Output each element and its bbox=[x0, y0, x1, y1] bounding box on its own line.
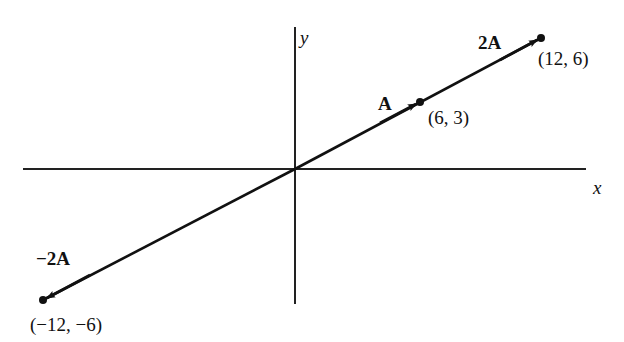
point-neg2A bbox=[39, 296, 47, 304]
vector-neg2A-arrowhead bbox=[47, 275, 90, 298]
vector-neg2A-label: −2A bbox=[36, 249, 70, 268]
vector-2A-label: 2A bbox=[478, 33, 501, 52]
vector-neg2A-coordinates: (−12, −6) bbox=[30, 315, 102, 334]
vector-A-label: A bbox=[378, 94, 392, 113]
point-2A bbox=[537, 34, 545, 42]
vector-2A-coordinates: (12, 6) bbox=[538, 49, 589, 68]
y-axis-label: y bbox=[300, 28, 308, 47]
vector-A-coordinates: (6, 3) bbox=[428, 108, 469, 127]
vector-diagram bbox=[0, 0, 624, 342]
point-A bbox=[416, 98, 424, 106]
x-axis-label: x bbox=[593, 178, 601, 197]
vector-2A-arrowhead bbox=[500, 40, 537, 60]
